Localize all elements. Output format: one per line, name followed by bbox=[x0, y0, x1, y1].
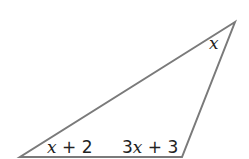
angle-label-top: x bbox=[209, 33, 219, 53]
angle-label-bottom-left: x + 2 bbox=[47, 137, 92, 157]
triangle-diagram: x x + 2 3x + 3 bbox=[0, 0, 249, 159]
angle-label-bottom-right: 3x + 3 bbox=[122, 137, 178, 157]
